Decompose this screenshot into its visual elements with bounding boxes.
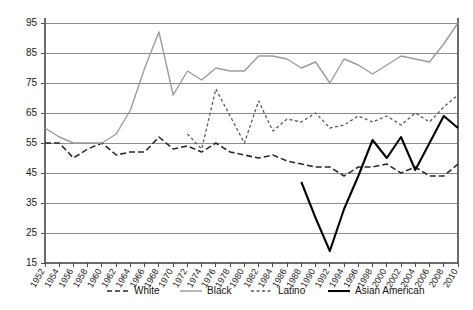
y-axis-tick-label: 65: [26, 107, 38, 118]
series-line-latino: [187, 89, 458, 149]
series-group: [45, 23, 458, 251]
y-axis-tick-label: 35: [26, 197, 38, 208]
line-chart: 1525354555657585951952195419561958196019…: [0, 0, 473, 310]
y-axis-tick-label: 95: [26, 17, 38, 28]
series-line-asian-american: [301, 116, 458, 251]
y-axis-tick-label: 15: [26, 257, 38, 268]
chart-canvas: 1525354555657585951952195419561958196019…: [0, 0, 473, 310]
legend-label-black: Black: [207, 285, 232, 296]
legend-label-latino: Latino: [278, 285, 306, 296]
legend-label-asian-american: Asian American: [355, 285, 424, 296]
y-axis-tick-label: 45: [26, 167, 38, 178]
y-axis-tick-label: 55: [26, 137, 38, 148]
y-axis-tick-label: 85: [26, 47, 38, 58]
y-axis-tick-label: 75: [26, 77, 38, 88]
legend-label-white: White: [134, 285, 160, 296]
y-axis-tick-label: 25: [26, 227, 38, 238]
x-axis-tick-label: 2010: [441, 267, 460, 289]
